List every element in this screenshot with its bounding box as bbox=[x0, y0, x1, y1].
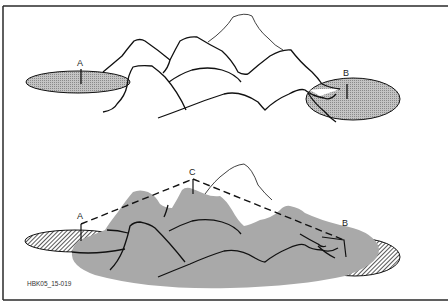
label-c: C bbox=[189, 167, 196, 177]
diagram-canvas: A B bbox=[0, 0, 448, 306]
bottom-panel: A C B HBK05_15-019 bbox=[25, 164, 400, 288]
label-b-top: B bbox=[343, 68, 349, 78]
mountain-outlines-top bbox=[103, 14, 340, 122]
viewpoint-area-b bbox=[306, 78, 400, 120]
viewpoint-area-a bbox=[26, 71, 130, 93]
figure-id: HBK05_15-019 bbox=[27, 280, 72, 288]
label-a-top: A bbox=[77, 58, 83, 68]
top-panel: A B bbox=[26, 14, 400, 122]
label-b-bottom: B bbox=[342, 218, 348, 228]
label-a-bottom: A bbox=[77, 211, 83, 221]
